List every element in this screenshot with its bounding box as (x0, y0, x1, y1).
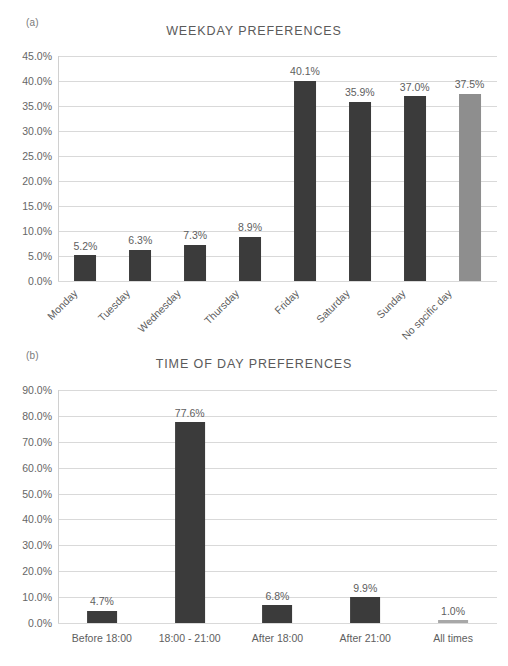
y-axis-tick-label: 5.0% (28, 251, 52, 262)
x-axis-tick-label: Thursday (201, 287, 240, 326)
y-axis-tick-label: 10.0% (22, 226, 52, 237)
bar-slot: 5.2%Monday (58, 56, 113, 281)
y-axis-tick-label: 50.0% (22, 488, 52, 499)
bar-value-label: 1.0% (441, 606, 465, 617)
bar[interactable] (263, 605, 293, 623)
x-axis-tick-label: 18:00 - 21:00 (159, 632, 221, 644)
bar[interactable] (438, 620, 468, 623)
bar-value-label: 4.7% (90, 596, 114, 607)
chart-title-b: TIME OF DAY PREFERENCES (0, 357, 508, 371)
y-axis-tick-label: 20.0% (22, 566, 52, 577)
bar[interactable] (175, 422, 205, 623)
bar-value-label: 37.0% (400, 82, 430, 93)
gridline (58, 281, 497, 282)
chart-panel-a: (a) WEEKDAY PREFERENCES 0.0%5.0%10.0%15.… (0, 0, 508, 340)
y-axis-tick-label: 60.0% (22, 462, 52, 473)
bar-value-label: 5.2% (73, 241, 97, 252)
bar-slot: 8.9%Thursday (223, 56, 278, 281)
bar-slot: 1.0%All times (409, 390, 497, 623)
bars-group-a: 5.2%Monday6.3%Tuesday7.3%Wednesday8.9%Th… (58, 56, 497, 281)
bar[interactable] (294, 81, 316, 282)
bar[interactable] (349, 102, 371, 282)
bar[interactable] (239, 237, 261, 282)
bar-value-label: 35.9% (345, 87, 375, 98)
bars-group-b: 4.7%Before 18:0077.6%18:00 - 21:006.8%Af… (58, 390, 497, 623)
y-axis-tick-label: 40.0% (22, 514, 52, 525)
bar-slot: 4.7%Before 18:00 (58, 390, 146, 623)
bar-value-label: 77.6% (175, 408, 205, 419)
bar[interactable] (74, 255, 96, 281)
x-axis-tick-label: Before 18:00 (72, 632, 132, 644)
x-axis-tick-label: Saturday (313, 287, 351, 325)
y-axis-tick-label: 10.0% (22, 592, 52, 603)
plot-area-b: 0.0%10.0%20.0%30.0%40.0%50.0%60.0%70.0%8… (58, 390, 497, 623)
y-axis-tick-label: 30.0% (22, 126, 52, 137)
plot-area-a: 0.0%5.0%10.0%15.0%20.0%25.0%30.0%35.0%40… (58, 56, 497, 281)
y-axis-tick-label: 0.0% (28, 618, 52, 629)
bar[interactable] (350, 597, 380, 623)
y-axis-tick-label: 80.0% (22, 411, 52, 422)
y-axis-tick-label: 20.0% (22, 176, 52, 187)
x-axis-tick-label: Wednesday (135, 287, 183, 335)
bar-value-label: 6.3% (128, 235, 152, 246)
y-axis-tick-label: 25.0% (22, 151, 52, 162)
y-axis-tick-label: 35.0% (22, 101, 52, 112)
bar-value-label: 6.8% (266, 591, 290, 602)
x-axis-tick-label: Sunday (374, 287, 408, 321)
bar[interactable] (184, 245, 206, 282)
bar[interactable] (459, 94, 481, 282)
x-axis-tick-label: Monday (44, 287, 79, 322)
y-axis-tick-label: 45.0% (22, 51, 52, 62)
y-axis-tick-label: 15.0% (22, 201, 52, 212)
chart-title-a: WEEKDAY PREFERENCES (0, 24, 508, 38)
gridline (58, 623, 497, 624)
bar[interactable] (404, 96, 426, 281)
bar-slot: 77.6%18:00 - 21:00 (146, 390, 234, 623)
bar-slot: 40.1%Friday (278, 56, 333, 281)
bar-slot: 7.3%Wednesday (168, 56, 223, 281)
y-axis-tick-label: 40.0% (22, 76, 52, 87)
bar-value-label: 37.5% (455, 79, 485, 90)
y-axis-tick-label: 0.0% (28, 276, 52, 287)
bar-value-label: 7.3% (183, 230, 207, 241)
bar-slot: 37.5%No spcific day (442, 56, 497, 281)
bar-slot: 37.0%Sunday (387, 56, 442, 281)
bar-slot: 6.8%After 18:00 (234, 390, 322, 623)
bar-value-label: 8.9% (238, 222, 262, 233)
bar-slot: 6.3%Tuesday (113, 56, 168, 281)
y-axis-tick-label: 70.0% (22, 437, 52, 448)
bar-slot: 9.9%After 21:00 (321, 390, 409, 623)
x-axis-tick-label: Tuesday (96, 287, 133, 324)
x-axis-tick-label: All times (433, 632, 473, 644)
x-axis-tick-label: Friday (272, 287, 301, 316)
y-axis-tick-label: 90.0% (22, 385, 52, 396)
bar-slot: 35.9%Saturday (332, 56, 387, 281)
x-axis-tick-label: After 21:00 (340, 632, 391, 644)
bar-value-label: 9.9% (353, 583, 377, 594)
bar[interactable] (129, 250, 151, 282)
bar[interactable] (87, 611, 117, 623)
y-axis-tick-label: 30.0% (22, 540, 52, 551)
bar-value-label: 40.1% (290, 66, 320, 77)
chart-panel-b: (b) TIME OF DAY PREFERENCES 0.0%10.0%20.… (0, 340, 508, 666)
x-axis-tick-label: After 18:00 (252, 632, 303, 644)
